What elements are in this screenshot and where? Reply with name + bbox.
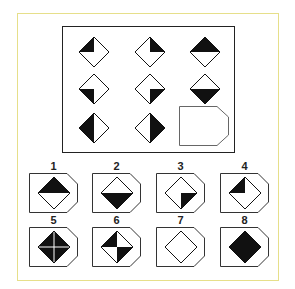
answer-option-1[interactable]	[29, 173, 78, 213]
option-6-diamond-icon	[100, 230, 134, 264]
answer-option-4[interactable]	[220, 173, 269, 213]
matrix-cell-r3c1-diamond-icon	[78, 112, 110, 144]
option-1-diamond-icon	[37, 176, 71, 210]
matrix-cell-r1c1-diamond-icon	[78, 36, 110, 68]
matrix-cell-r3c2-diamond-icon	[134, 112, 166, 144]
option-8-diamond-icon	[228, 230, 262, 264]
option-8-label: 8	[220, 214, 269, 226]
matrix-cell-r1c2-diamond-icon	[134, 36, 166, 68]
answer-option-3[interactable]	[156, 173, 205, 213]
missing-cell-placeholder	[179, 106, 229, 150]
option-1-label: 1	[29, 160, 78, 172]
answer-option-8[interactable]	[220, 227, 269, 267]
option-4-label: 4	[220, 160, 269, 172]
option-5-diamond-icon	[37, 230, 71, 264]
option-3-label: 3	[156, 160, 205, 172]
option-2-label: 2	[92, 160, 141, 172]
matrix-cell-r2c2-diamond-icon	[134, 73, 166, 105]
answer-option-5[interactable]	[29, 227, 78, 267]
matrix-cell-r2c1-diamond-icon	[78, 73, 110, 105]
option-3-diamond-icon	[164, 176, 198, 210]
answer-option-7[interactable]	[156, 227, 205, 267]
option-7-diamond-icon	[164, 230, 198, 264]
option-6-label: 6	[92, 214, 141, 226]
option-7-label: 7	[156, 214, 205, 226]
option-4-diamond-icon	[228, 176, 262, 210]
matrix-cell-r2c3-diamond-icon	[189, 73, 221, 105]
option-5-label: 5	[29, 214, 78, 226]
matrix-cell-r1c3-diamond-icon	[189, 36, 221, 68]
answer-option-2[interactable]	[92, 173, 141, 213]
option-2-diamond-icon	[100, 176, 134, 210]
answer-option-6[interactable]	[92, 227, 141, 267]
